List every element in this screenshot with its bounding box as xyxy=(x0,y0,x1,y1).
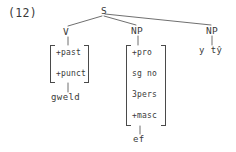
tree-node-s: S xyxy=(101,6,107,16)
feature-row: +punct xyxy=(56,70,86,78)
bracket-right-icon xyxy=(161,45,166,126)
feature-row: +pro xyxy=(132,49,152,57)
edge-s-np-object xyxy=(105,14,211,25)
bracket-left-icon xyxy=(126,45,131,126)
subject-np-feature-matrix: +pro sg no 3pers +masc xyxy=(126,45,166,126)
tree-node-v: V xyxy=(63,27,69,37)
tree-node-np-object: NP xyxy=(206,26,218,36)
tree-edges xyxy=(0,0,236,152)
tree-node-np-subject: NP xyxy=(131,26,143,36)
syntax-tree-figure: (12) S V NP NP +past +punct xyxy=(0,0,236,152)
terminal-ef: ef xyxy=(133,135,145,144)
feature-row: +past xyxy=(56,49,81,57)
edge-s-v xyxy=(68,16,102,26)
verb-feature-matrix: +past +punct xyxy=(50,45,89,83)
bracket-left-icon xyxy=(50,45,55,83)
feature-row: +masc xyxy=(132,112,157,120)
feature-row: sg no xyxy=(132,70,157,78)
feature-row: 3pers xyxy=(132,91,157,99)
terminal-gweld: gweld xyxy=(51,93,80,102)
terminal-y-ty: y tŷ xyxy=(199,46,222,55)
edge-s-np-subject xyxy=(104,16,136,25)
